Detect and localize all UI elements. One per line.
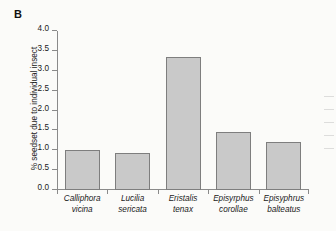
x-axis-labels: CalliphoravicinaLuciliasericataEristalis… <box>57 193 309 227</box>
x-axis-category-label-line: balteatus <box>253 204 315 215</box>
y-axis-tick-label: 2.0 <box>38 104 49 113</box>
y-axis-tick-label: 3.0 <box>38 64 49 73</box>
y-axis-tick-label: 3.5 <box>38 44 49 53</box>
y-axis-tick-label: 0.0 <box>38 183 49 192</box>
bar <box>266 142 301 190</box>
panel-label: B <box>14 8 22 20</box>
y-axis-tick-label: 4.0 <box>38 24 49 33</box>
plot-area: 0.00.51.01.52.02.53.03.54.0 <box>57 31 309 190</box>
bar-series <box>57 31 309 190</box>
bar <box>115 153 150 190</box>
page-edge-artifacts <box>324 96 334 182</box>
bar <box>166 57 201 190</box>
figure-panel-b: B % seedset due to individual insect 0.0… <box>0 0 336 231</box>
x-axis-category-label-line: Episyphrus <box>253 193 315 204</box>
y-axis-tick-label: 2.5 <box>38 84 49 93</box>
y-axis-tick-label: 1.5 <box>38 123 49 132</box>
x-axis-category-label: Episyphrusbalteatus <box>253 193 315 215</box>
y-axis-tick-label: 0.5 <box>38 163 49 172</box>
bar <box>216 132 251 190</box>
y-axis-tick-label: 1.0 <box>38 143 49 152</box>
bar <box>65 150 100 190</box>
